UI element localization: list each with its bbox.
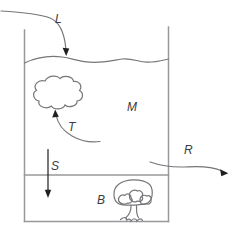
- water-surface-wave: [25, 57, 169, 63]
- label-settling-S: S: [51, 160, 59, 172]
- label-transfer-T: T: [68, 121, 75, 133]
- lake-box-model-diagram: L T M S R B: [0, 0, 238, 234]
- label-bottom-layer-B: B: [97, 194, 105, 206]
- outflow-arrow-curve: [150, 162, 221, 171]
- plant-trunk: [137, 206, 139, 218]
- transfer-arrowhead: [52, 110, 59, 118]
- label-water-column-M: M: [127, 101, 137, 113]
- plant-trunk: [126, 206, 131, 218]
- settling-arrowhead: [45, 190, 51, 198]
- transfer-arrow-curve: [56, 114, 100, 142]
- cloud-shape: [34, 76, 83, 109]
- plant-roots: [121, 218, 143, 221]
- label-inflow-L: L: [55, 13, 62, 25]
- diagram-line-art: [0, 0, 238, 234]
- label-outflow-R: R: [184, 144, 193, 156]
- inflow-arrowhead: [63, 48, 70, 56]
- outflow-arrowhead: [220, 169, 228, 176]
- sketch-lines: [1, 11, 221, 221]
